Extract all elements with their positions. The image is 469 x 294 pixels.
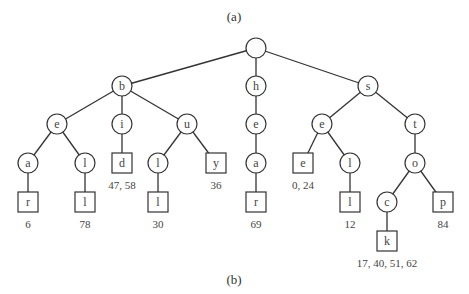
node-label: e bbox=[253, 117, 258, 131]
node-label: c bbox=[384, 195, 389, 209]
leaf-node-bear: r6 bbox=[18, 192, 38, 230]
trie-node-bul: l bbox=[148, 153, 168, 173]
trie-node-st: t bbox=[405, 114, 425, 134]
node-label: h bbox=[253, 79, 259, 93]
node-label: a bbox=[253, 156, 259, 170]
leaf-node-hear: r69 bbox=[246, 192, 266, 230]
node-label: d bbox=[119, 156, 125, 170]
node-label: e bbox=[319, 117, 324, 131]
leaf-node-stock: k17, 40, 51, 62 bbox=[357, 231, 418, 269]
trie-node-bi: i bbox=[112, 114, 132, 134]
positions-label: 30 bbox=[153, 218, 165, 230]
trie-node-h: h bbox=[246, 76, 266, 96]
positions-label: 12 bbox=[345, 218, 356, 230]
node-label: y bbox=[213, 156, 219, 170]
trie-node-se: e bbox=[312, 114, 332, 134]
node-label: o bbox=[412, 156, 418, 170]
positions-label: 84 bbox=[438, 218, 450, 230]
node-label: e bbox=[54, 117, 59, 131]
trie-node-sel: l bbox=[340, 153, 360, 173]
node-label: u bbox=[184, 117, 190, 131]
trie-node-bea: a bbox=[18, 153, 38, 173]
edge-b-bu bbox=[122, 86, 187, 124]
positions-label: 36 bbox=[211, 179, 223, 191]
node-circle bbox=[246, 38, 266, 58]
trie-node-he: e bbox=[246, 114, 266, 134]
leaf-node-bid: d47, 58 bbox=[108, 153, 136, 191]
positions-label: 47, 58 bbox=[108, 179, 136, 191]
edge-root-b bbox=[122, 48, 256, 86]
trie-node-root bbox=[246, 38, 266, 58]
trie-node-stoc: c bbox=[377, 192, 397, 212]
positions-label: 0, 24 bbox=[292, 179, 315, 191]
leaf-node-see: e0, 24 bbox=[292, 153, 315, 191]
edge-root-s bbox=[256, 48, 368, 86]
trie-node-bel: l bbox=[75, 153, 95, 173]
caption-top: (a) bbox=[227, 9, 241, 24]
edge-b-be bbox=[57, 86, 122, 124]
trie-node-sto: o bbox=[405, 153, 425, 173]
caption-bottom: (b) bbox=[226, 272, 241, 287]
leaf-node-sell: l12 bbox=[340, 192, 360, 230]
node-label: r bbox=[254, 195, 258, 209]
trie-node-s: s bbox=[358, 76, 378, 96]
node-label: p bbox=[440, 195, 446, 209]
trie-node-be: e bbox=[47, 114, 67, 134]
positions-label: 69 bbox=[251, 218, 263, 230]
trie-node-hea: a bbox=[246, 153, 266, 173]
positions-label: 78 bbox=[80, 218, 92, 230]
trie-diagram: (a) bhseiueetald47, 58ly36ae0, 24lor6l78… bbox=[0, 0, 469, 294]
node-label: s bbox=[366, 79, 371, 93]
nodes: bhseiueetald47, 58ly36ae0, 24lor6l78l30r… bbox=[18, 38, 453, 269]
trie-node-b: b bbox=[112, 76, 132, 96]
node-label: e bbox=[300, 156, 305, 170]
trie-node-bu: u bbox=[177, 114, 197, 134]
node-label: r bbox=[26, 195, 30, 209]
node-label: a bbox=[25, 156, 31, 170]
leaf-node-buy: y36 bbox=[206, 153, 226, 191]
leaf-node-bell: l78 bbox=[75, 192, 95, 230]
positions-label: 17, 40, 51, 62 bbox=[357, 257, 418, 269]
leaf-node-stop: p84 bbox=[433, 192, 453, 230]
node-label: k bbox=[384, 234, 390, 248]
node-label: b bbox=[119, 79, 125, 93]
positions-label: 6 bbox=[25, 218, 31, 230]
leaf-node-bull: l30 bbox=[148, 192, 168, 230]
